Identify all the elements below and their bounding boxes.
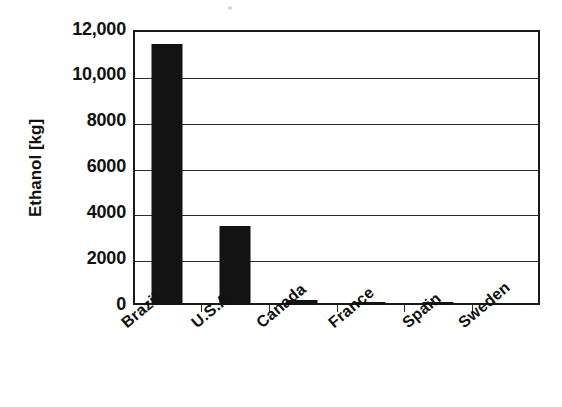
x-tick-label-france: France bbox=[325, 284, 378, 332]
x-tick-label-canada: Canada bbox=[253, 280, 310, 332]
x-tick-label-spain: Spain bbox=[399, 289, 445, 331]
x-tick-label-usa: U.S.A. bbox=[188, 287, 237, 332]
chart-figure: Ethanol [kg] 12,000 10,000 8000 6000 400… bbox=[0, 0, 562, 407]
x-tick-label-brazil: Brazil bbox=[118, 289, 164, 332]
x-tick-label-sweden: Sweden bbox=[455, 278, 514, 331]
x-axis-tick-labels: Brazil U.S.A. Canada France Spain Sweden bbox=[0, 0, 562, 407]
